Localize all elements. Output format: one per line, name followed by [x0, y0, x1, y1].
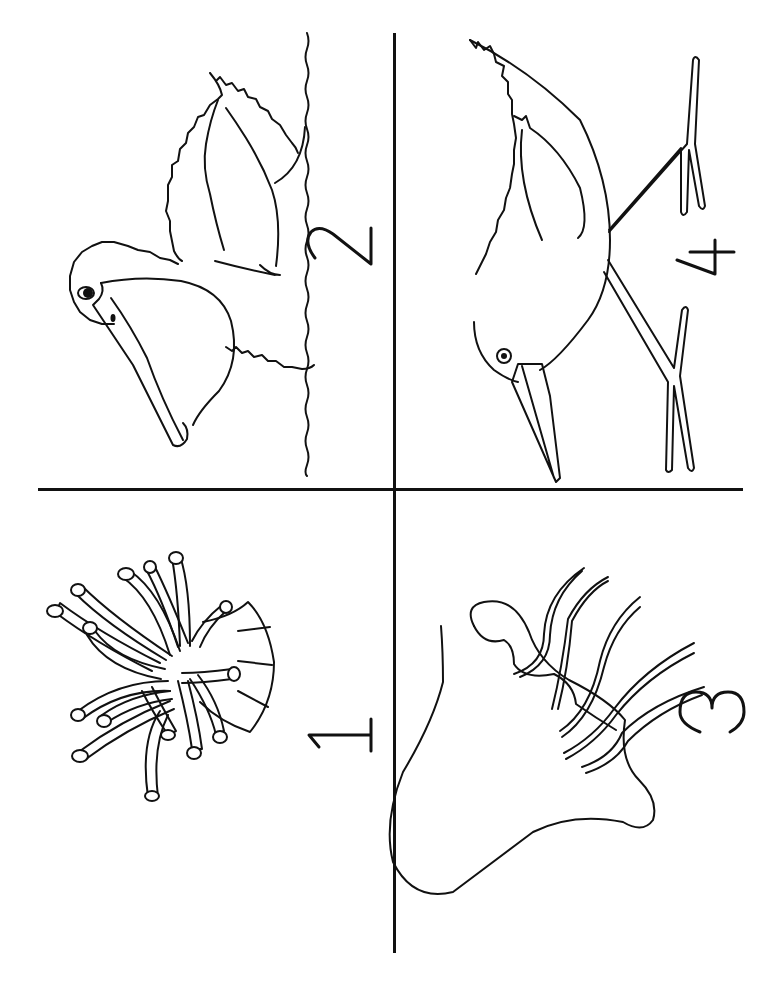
pelican-eye-icon: [83, 288, 93, 298]
shorebird-wing-icon: [514, 116, 585, 240]
number-2-icon: [308, 228, 371, 264]
panel-sea-squirt: sea squirt / tunicate with tentacles 3: [396, 491, 763, 986]
sea-squirt-body-icon: [390, 601, 655, 894]
water-line-icon: [306, 33, 309, 476]
pelican-head-icon: [70, 242, 178, 324]
panel-shorebird: shorebird wading 4: [396, 0, 763, 488]
anemone-tentacles-icon: [47, 552, 240, 801]
number-4-icon: [677, 240, 734, 274]
panel-sea-anemone: sea anemone: [0, 491, 393, 986]
panel-pelican: pelican on water 2: [0, 0, 393, 488]
number-3-icon: [680, 692, 744, 732]
sea-squirt-tentacles-icon: [514, 568, 704, 773]
pelican-drawing: [0, 0, 393, 488]
sea-anemone-drawing: [0, 491, 393, 986]
shorebird-back-icon: [470, 40, 516, 274]
worksheet-page: pelican on water 2: [0, 0, 763, 986]
shorebird-beak-icon: [512, 364, 560, 482]
sea-squirt-drawing: [396, 491, 763, 986]
shorebird-drawing: [396, 0, 763, 488]
number-1-icon: [309, 719, 371, 751]
shorebird-leg-icon: [609, 57, 705, 232]
